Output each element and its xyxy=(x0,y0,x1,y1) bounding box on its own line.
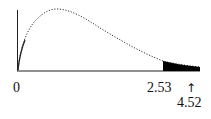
tick-label-zero: 0 xyxy=(13,81,20,95)
arrow-up-icon: ↑ xyxy=(186,81,196,95)
shaded-tail-region xyxy=(163,61,200,71)
observed-value-label: 4.52 xyxy=(177,96,202,110)
density-curve xyxy=(18,9,200,70)
density-curve-start xyxy=(18,40,25,70)
tick-label-critical-value: 2.53 xyxy=(147,81,172,95)
